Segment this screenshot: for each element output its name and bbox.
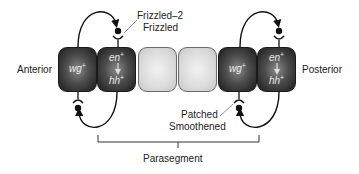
patched-receptor-icon <box>234 100 244 103</box>
parasegment-bracket <box>98 135 259 148</box>
wingless-ligand-icon <box>115 28 121 34</box>
segment-polarity-diagram: wg+ en+ hh+ wg+ en+ hh+ <box>0 0 359 174</box>
hedgehog-ligand-icon <box>75 105 81 111</box>
posterior-label: Posterior <box>302 64 342 75</box>
frizzled-pointer <box>124 20 137 33</box>
hedgehog-signal-arrow-right <box>234 92 279 127</box>
frizzled-receptor-icon <box>274 36 284 39</box>
frizzled-receptor-icon <box>113 36 123 39</box>
wingless-signal-arrow-left <box>78 12 123 47</box>
anterior-label: Anterior <box>17 64 52 75</box>
patched-receptor-icon <box>73 100 83 103</box>
connector-lines <box>0 0 359 174</box>
wingless-ligand-icon <box>276 28 282 34</box>
hedgehog-ligand-icon <box>236 105 242 111</box>
frizzled-2-label: Frizzled–2 <box>137 10 183 21</box>
patched-pointer <box>220 104 233 116</box>
hedgehog-signal-arrow-left <box>73 92 117 127</box>
frizzled-label: Frizzled <box>143 22 178 33</box>
patched-label: Patched <box>181 109 218 120</box>
parasegment-label: Parasegment <box>143 153 202 164</box>
smoothened-label: Smoothened <box>169 121 226 132</box>
wingless-signal-arrow-right <box>240 12 284 47</box>
